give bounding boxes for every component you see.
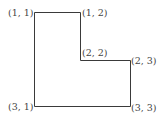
vertex-label-3-3: (3, 3) (131, 102, 157, 113)
vertex-label-3-1: (3, 1) (8, 101, 34, 112)
l-shape-polygon (35, 13, 131, 107)
vertex-label-2-3: (2, 3) (131, 55, 157, 66)
vertex-label-1-1: (1, 1) (8, 7, 34, 18)
l-shape-diagram: (1, 1) (1, 2) (2, 2) (2, 3) (3, 1) (3, 3… (0, 0, 164, 118)
vertex-label-1-2: (1, 2) (82, 7, 108, 18)
vertex-label-2-2: (2, 2) (82, 47, 108, 58)
